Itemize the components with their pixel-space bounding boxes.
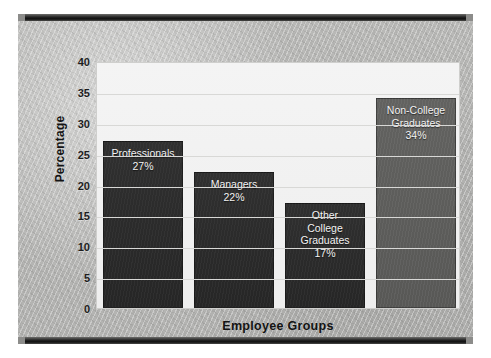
plot-area: Professionals 27%Managers 22%Other Colle… [96,62,460,309]
gridline-10 [97,248,459,249]
gridline-5 [97,279,459,280]
frame-cap-bottom-left [18,337,25,344]
frame-cap-bottom-right [466,337,473,344]
gridline-20 [97,187,459,188]
gridline-15 [97,217,459,218]
y-axis-ticks: 4035302520151050 [58,62,90,309]
x-axis-title: Employee Groups [96,319,460,333]
y-axis-tick-5: 5 [60,272,90,284]
gridline-25 [97,156,459,157]
chart-panel: Percentage 4035302520151050 Professional… [18,14,473,344]
bar-label: Other College Graduates 17% [297,204,352,259]
y-axis-tick-25: 25 [60,149,90,161]
y-axis-tick-15: 15 [60,210,90,222]
y-axis-tick-35: 35 [60,87,90,99]
y-axis-tick-0: 0 [60,303,90,315]
bar-label: Professionals 27% [108,142,177,172]
y-axis-tick-30: 30 [60,118,90,130]
bar-series: Professionals 27%Managers 22%Other Colle… [97,63,459,308]
bar-professionals[interactable]: Professionals 27% [103,141,183,308]
bar-managers[interactable]: Managers 22% [194,172,274,308]
bar-other-college-graduates[interactable]: Other College Graduates 17% [285,203,365,308]
gridline-35 [97,94,459,95]
frame-cap-top-left [18,14,25,21]
frame-cap-top-right [466,14,473,21]
gridline-30 [97,125,459,126]
frame-rail-bottom [18,337,473,344]
bar-label: Non-College Graduates 34% [384,99,448,142]
bar-label: Managers 22% [208,173,261,203]
chart-page: Percentage 4035302520151050 Professional… [0,0,491,358]
frame-rail-top [18,14,473,21]
y-axis-tick-10: 10 [60,241,90,253]
bar-non-college-graduates[interactable]: Non-College Graduates 34% [376,98,456,308]
y-axis-tick-40: 40 [60,56,90,68]
y-axis-tick-20: 20 [60,180,90,192]
